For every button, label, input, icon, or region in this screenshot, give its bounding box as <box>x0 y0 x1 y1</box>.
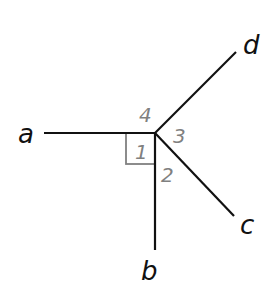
ray-label-c: c <box>240 210 254 240</box>
angle-label-3: 3 <box>173 124 186 148</box>
ray-label-a: a <box>18 119 34 149</box>
angle-label-1: 1 <box>135 140 148 164</box>
ray-d <box>155 52 236 133</box>
angle-diagram: a b c d 1 2 3 4 <box>0 0 271 295</box>
angle-label-2: 2 <box>161 163 174 187</box>
angle-label-4: 4 <box>139 103 152 127</box>
ray-label-d: d <box>243 30 260 60</box>
ray-label-b: b <box>141 256 158 286</box>
